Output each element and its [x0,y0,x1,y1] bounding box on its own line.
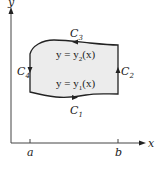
line-integral-region-diagram: y x a b C3 C1 C4 C2 y = y2(x) y = y1(x) [0,0,156,169]
x-axis-label: x [148,137,155,150]
curve-label-c2: C2 [121,65,134,80]
curve-label-c1: C1 [70,104,83,119]
tick-label-b: b [115,146,122,159]
tick-label-a: a [27,146,34,159]
y-axis-label: y [7,0,15,9]
x-axis-arrow-icon [139,141,146,146]
curve-label-c3: C3 [70,27,83,42]
